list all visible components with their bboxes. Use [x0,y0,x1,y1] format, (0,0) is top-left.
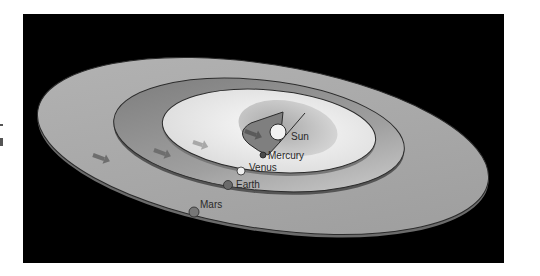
orbit-diagram-svg: Sun Mercury Venus Earth Mars [23,14,504,263]
mars-label: Mars [200,199,222,210]
sun-body [270,124,286,140]
earth-label: Earth [236,179,260,190]
earth-planet [224,181,233,190]
mercury-label: Mercury [268,150,304,161]
venus-label: Venus [249,162,277,173]
mars-planet [189,207,199,217]
venus-planet [237,167,245,175]
mercury-planet [260,152,266,158]
sun-label: Sun [291,131,309,142]
solar-system-diagram: Sun Mercury Venus Earth Mars [23,14,504,263]
page-margin-mark [0,138,3,146]
page-margin-mark [0,124,3,126]
